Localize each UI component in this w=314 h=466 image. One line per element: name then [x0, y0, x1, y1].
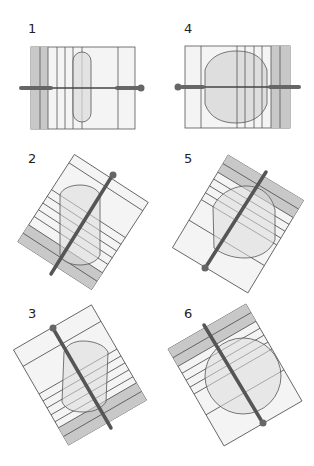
panel-6: 6: [168, 304, 302, 446]
panel-4: 4: [175, 21, 300, 128]
panel-label-1: 1: [28, 21, 36, 36]
panel-label-6: 6: [184, 306, 192, 321]
capsule-shape: [62, 341, 108, 412]
rod-ball: [175, 84, 182, 91]
panel-label-5: 5: [184, 151, 192, 166]
panel-3: 3: [14, 305, 147, 445]
panel-2: 2: [18, 151, 148, 290]
rod-ball: [50, 325, 57, 332]
rod-ball: [260, 420, 267, 427]
panel-1: 1: [21, 21, 145, 129]
rod-ball: [138, 85, 145, 92]
capsule-shape: [73, 52, 91, 122]
panel-label-4: 4: [184, 21, 192, 36]
diagram-canvas: 1 4: [0, 0, 314, 466]
oval-shape: [205, 338, 281, 414]
panel-label-2: 2: [28, 151, 36, 166]
rod-ball: [110, 172, 117, 179]
panel-label-3: 3: [28, 306, 36, 321]
oval-shape: [213, 186, 275, 258]
rod-ball: [202, 265, 209, 272]
panel-5: 5: [172, 151, 303, 293]
